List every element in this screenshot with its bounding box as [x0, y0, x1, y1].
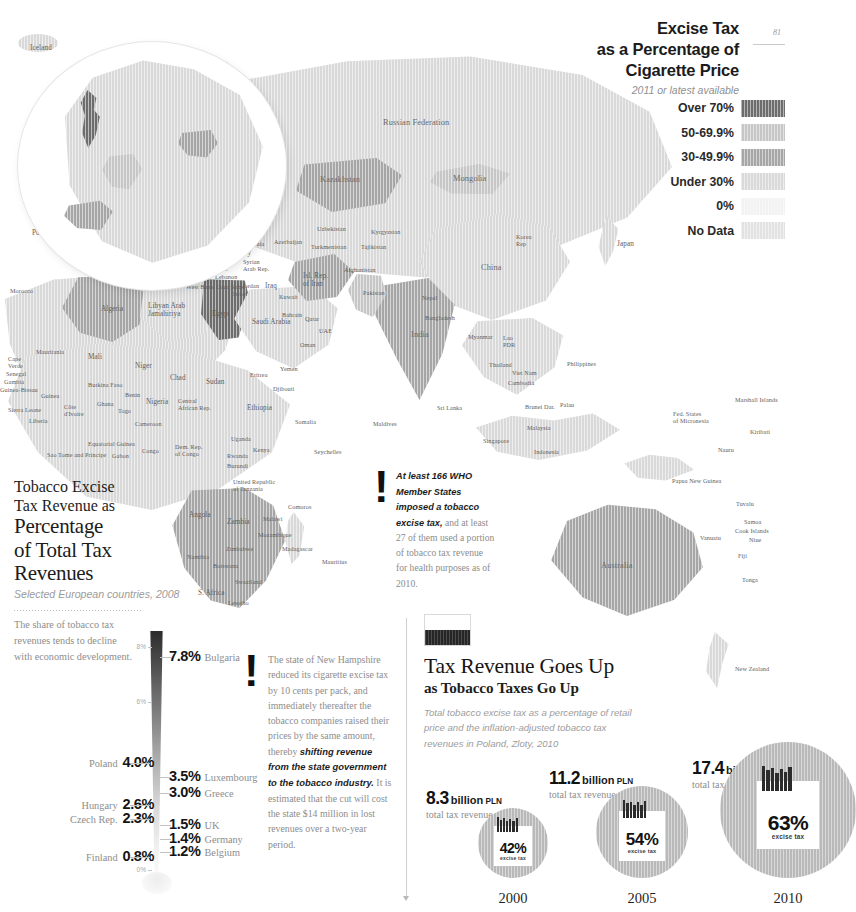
map-label: Indonesia [534, 448, 559, 455]
chart-country-name: Belgium [204, 847, 239, 858]
legend-entry-label: 30-49.9% [681, 150, 734, 164]
map-label: Malawi [263, 515, 283, 522]
legend-subtitle: 2011 or latest available [585, 84, 785, 96]
map-label: Singapore [483, 437, 509, 444]
map-label: Kyrgyzstan [371, 228, 400, 235]
exclamation-icon: ! [244, 654, 259, 688]
map-label: Rwanda [227, 452, 248, 459]
revenue-panel-title: Tax Revenue Goes Up [424, 655, 782, 678]
cigarette [780, 769, 783, 791]
legend-title: Excise Tax as a Percentage of Cigarette … [585, 18, 785, 81]
map-label: Saudi Arabia [252, 318, 291, 326]
map-label: Marshall Islands [735, 396, 778, 403]
cigarette-pack-icon: 63%excise tax [757, 781, 819, 849]
chart-country-name: Bulgaria [204, 652, 239, 663]
bar-title-line-2: Tax Revenue as [14, 497, 115, 514]
map-label: Russian Federation [383, 118, 449, 128]
legend-entry-label: Under 30% [670, 175, 734, 189]
legend-title-line-1: Excise Tax [657, 19, 739, 37]
map-label: Ethiopia [247, 404, 272, 412]
revenue-number: 17.4 [692, 758, 724, 778]
leader-line [130, 819, 150, 820]
legend-title-line-3: Cigarette Price [626, 61, 739, 79]
map-label: Papua New Guinea [672, 477, 721, 484]
map-label: Egypt [212, 310, 230, 318]
map-label: Burundi [227, 462, 248, 469]
map-label: Uzbekistan [317, 225, 346, 232]
map-legend: Excise Tax as a Percentage of Cigarette … [585, 18, 785, 243]
map-label: Nepal [422, 294, 437, 301]
exclamation-icon: ! [374, 470, 389, 504]
leader-line [160, 793, 171, 794]
map-label: Tonga [742, 576, 758, 583]
map-label: India [411, 330, 429, 340]
map-label: Gambia [4, 378, 24, 385]
map-label: Mauritius [322, 558, 347, 565]
bar-title-line-3: Percentage [14, 515, 262, 538]
bar-title-line-4: of Total Tax [14, 539, 262, 562]
leader-line [130, 805, 150, 806]
revenue-panel-description: Total tobacco excise tax as a percentage… [424, 705, 642, 750]
map-label: Togo [118, 407, 131, 414]
chart-value-label: Czech Rep.2.3% [70, 810, 154, 826]
map-label: Sri Lanka [437, 404, 462, 411]
chart-value: 3.5% [169, 768, 200, 784]
chart-value: 1.2% [169, 843, 200, 859]
who-callout: ! At least 166 WHO Member States imposed… [374, 468, 496, 591]
revenue-circle-2010: 17.4billion PLNtotal tax revenue63%excis… [424, 760, 784, 910]
bar-panel-subtitle: Selected European countries, 2008 [14, 588, 262, 602]
map-label: Bangladesh [425, 314, 455, 321]
chart-country-name: Finland [86, 852, 117, 863]
map-label: Palau [560, 401, 574, 408]
map-label: Kazakhstan [320, 175, 360, 185]
chart-value: 0.8% [123, 848, 154, 864]
map-label: Sierra Leone [8, 406, 41, 413]
map-label: Mali [88, 353, 102, 361]
leader-line [160, 777, 171, 778]
map-label: Lebanon [215, 273, 237, 280]
map-label: Nauru [718, 446, 734, 453]
map-label: Côted'Ivoire [64, 403, 84, 417]
bar-title-line-1: Tobacco Excise [14, 478, 115, 495]
map-label: Viet Nam [512, 369, 537, 376]
leader-line [160, 839, 171, 840]
map-label: Malaysia [527, 424, 550, 431]
map-label: KoreaRep [516, 233, 532, 247]
map-label: CapeVerde [8, 355, 23, 369]
map-label: Libyan ArabJamahiriya [148, 302, 185, 319]
map-label: Sao Tome and Principe [47, 451, 106, 458]
inset-landmass-europe [42, 52, 272, 267]
chart-country-name: Czech Rep. [70, 814, 117, 825]
bar-panel-title: Tobacco Excise Tax Revenue as Percentage… [14, 478, 262, 585]
map-label: Seychelles [314, 448, 341, 455]
map-label: Niger [135, 362, 152, 370]
cigarette [771, 768, 774, 791]
map-label: Uganda [231, 435, 251, 442]
map-label: Madagascar [282, 545, 313, 552]
legend-entry-label: 50-69.9% [681, 126, 734, 140]
legend-color-swatch [741, 149, 785, 166]
map-label: China [481, 263, 502, 273]
bar-title-line-5: Revenues [14, 562, 262, 585]
excise-tax-label: excise tax [772, 833, 805, 840]
map-label: Dem. Rep.of Congo [175, 443, 203, 457]
legend-color-swatch [741, 173, 785, 190]
map-label: Israel [233, 290, 247, 297]
map-label: Yemen [280, 365, 298, 372]
tax-revenue-goes-up-panel: Tax Revenue Goes Up as Tobacco Taxes Go … [424, 614, 782, 751]
map-label: Gabon [112, 452, 129, 459]
map-label: Bahrain [282, 311, 302, 318]
cone-base-shadow [142, 872, 172, 894]
map-label: Niue [749, 536, 761, 543]
flag-band-red [425, 630, 470, 645]
legend-entry: No Data [585, 218, 785, 243]
map-label: Isl. Rep.of Iran [303, 272, 328, 289]
map-label: LaoPDR [503, 334, 515, 348]
map-label: Burkina Faso [88, 381, 122, 388]
who-callout-text: At least 166 WHO Member States imposed a… [396, 468, 496, 591]
map-label: Chad [170, 374, 186, 382]
cigarette [784, 772, 787, 791]
map-label: Comoros [288, 503, 311, 510]
map-label: Cameroon [135, 420, 162, 427]
legend-entry-label: 0% [716, 199, 734, 213]
